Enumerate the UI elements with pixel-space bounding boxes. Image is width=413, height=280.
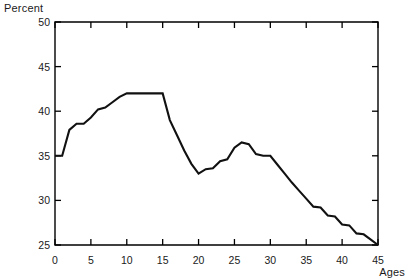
x-tick-label: 45 [372,255,384,266]
x-tick-label: 5 [88,255,94,266]
y-tick-label: 30 [22,195,50,206]
x-tick-label: 0 [52,255,58,266]
data-series-line [55,93,378,245]
y-tick-label: 50 [22,17,50,28]
y-tick-label: 25 [22,240,50,251]
axis-frame [55,22,378,245]
y-tick-label: 40 [22,106,50,117]
y-tick-label: 45 [22,61,50,72]
plot-frame [55,22,378,245]
x-tick-label: 25 [229,255,241,266]
x-tick-label: 15 [157,255,169,266]
tick-marks [55,22,378,245]
x-tick-label: 20 [193,255,205,266]
x-tick-label: 35 [300,255,312,266]
chart-container: Percent Ages 253035404550 05101520253035… [0,0,413,280]
y-tick-label: 35 [22,150,50,161]
x-tick-label: 40 [336,255,348,266]
line-chart-plot [0,0,413,280]
x-tick-label: 30 [264,255,276,266]
x-tick-label: 10 [121,255,133,266]
